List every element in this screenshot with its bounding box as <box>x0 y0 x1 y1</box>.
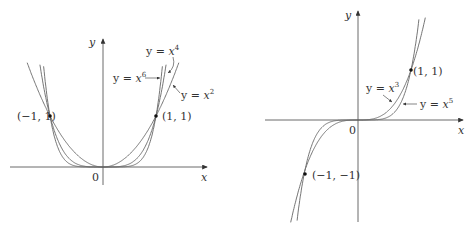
pointer-x2 <box>173 85 180 93</box>
point-right <box>154 114 158 118</box>
label-x6: y = x6 <box>112 71 147 85</box>
pointer-x3 <box>383 95 392 102</box>
right-origin-label: 0 <box>349 124 356 137</box>
left-origin-label: 0 <box>92 171 99 184</box>
right-point-bottom-label: (−1, −1) <box>312 169 360 182</box>
label-x2: y = x2 <box>180 88 214 102</box>
right-graph: y x 0 (1, 1) (−1, −1) y = x3 y = x5 <box>265 9 465 222</box>
label-x5: y = x5 <box>419 97 453 111</box>
right-y-label: y <box>344 9 352 22</box>
right-point-top-label: (1, 1) <box>413 65 443 78</box>
left-y-label: y <box>88 36 96 49</box>
right-x-label: x <box>458 124 465 137</box>
left-point-left-label: (−1, 1) <box>17 110 56 123</box>
left-graph: y x 0 (−1, 1) (1, 1) y = x4 y = x6 y = x… <box>10 36 214 185</box>
left-point-right-label: (1, 1) <box>162 110 192 123</box>
left-x-label: x <box>201 171 208 184</box>
label-x3: y = x3 <box>365 81 399 95</box>
pointer-x4 <box>168 57 174 73</box>
point-bottom <box>303 172 307 176</box>
label-x4: y = x4 <box>145 44 180 58</box>
